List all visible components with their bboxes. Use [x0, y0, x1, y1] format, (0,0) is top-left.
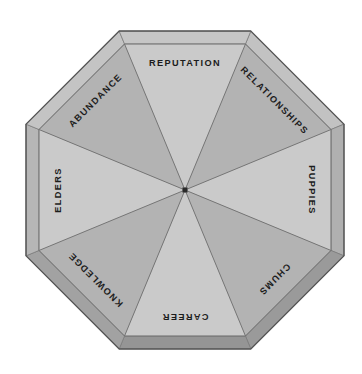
rim-facet: [26, 124, 39, 256]
panel-label-puppies: PUPPIES: [307, 165, 317, 214]
rim-facet: [119, 31, 251, 44]
diagram-canvas: REPUTATIONRELATIONSHIPSPUPPIESCHUMSCAREE…: [0, 0, 362, 374]
rim-facet: [331, 124, 344, 256]
panel-label-elders: ELDERS: [53, 167, 63, 212]
umbrella-center-hub: [183, 188, 188, 193]
panel-label-reputation: REPUTATION: [149, 58, 221, 68]
panel-label-career: CAREER: [162, 312, 209, 322]
umbrella-octagon-figure: REPUTATIONRELATIONSHIPSPUPPIESCHUMSCAREE…: [0, 0, 362, 374]
rim-facet: [119, 336, 251, 349]
